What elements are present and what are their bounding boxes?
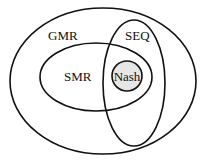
gmr-label: GMR (48, 28, 78, 43)
smr-label: SMR (64, 69, 92, 84)
seq-label: SEQ (125, 28, 150, 43)
venn-diagram: GMR SEQ SMR Nash (0, 0, 208, 166)
nash-label: Nash (114, 69, 141, 84)
